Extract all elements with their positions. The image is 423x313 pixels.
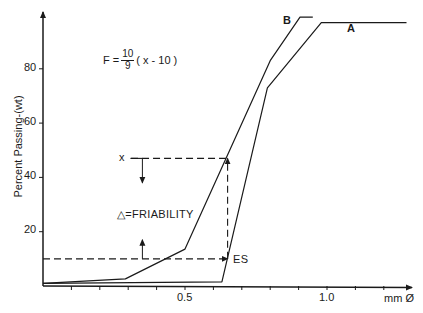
- chart: 20 40 60 80 0.5 1.0 mm Ø Percent Passing…: [0, 0, 423, 313]
- formula-suffix: ( x - 10 ): [136, 55, 177, 66]
- formula-numerator: 10: [121, 49, 134, 61]
- formula-fraction: 10 9: [121, 49, 134, 71]
- x-tick-label-1.0: 1.0: [319, 292, 334, 303]
- x-axis-line: [43, 286, 412, 288]
- x-tick-label-0.5: 0.5: [177, 292, 192, 303]
- plot-area: [0, 0, 423, 313]
- friability-label: △=FRIABILITY: [117, 209, 194, 220]
- y-axis-label: Percent Passing-(wt): [13, 87, 24, 207]
- y-tick-label-40: 40: [24, 170, 36, 181]
- x-axis-label: mm Ø: [384, 293, 414, 304]
- formula-prefix: F =: [103, 55, 119, 66]
- y-tick-label-20: 20: [24, 224, 36, 235]
- axes: [39, 12, 412, 290]
- curve-label-a: A: [347, 23, 355, 34]
- friability-formula: F = 10 9 ( x - 10 ): [103, 49, 177, 71]
- es-label: ES: [233, 254, 248, 265]
- curve-b: [43, 17, 313, 283]
- y-tick-label-60: 60: [24, 116, 36, 127]
- x-marker-label: x: [119, 152, 125, 163]
- curve-a: [43, 23, 407, 284]
- y-tick-label-80: 80: [24, 62, 36, 73]
- formula-denominator: 9: [125, 61, 131, 72]
- curve-label-b: B: [283, 15, 291, 26]
- data-series: [43, 17, 407, 283]
